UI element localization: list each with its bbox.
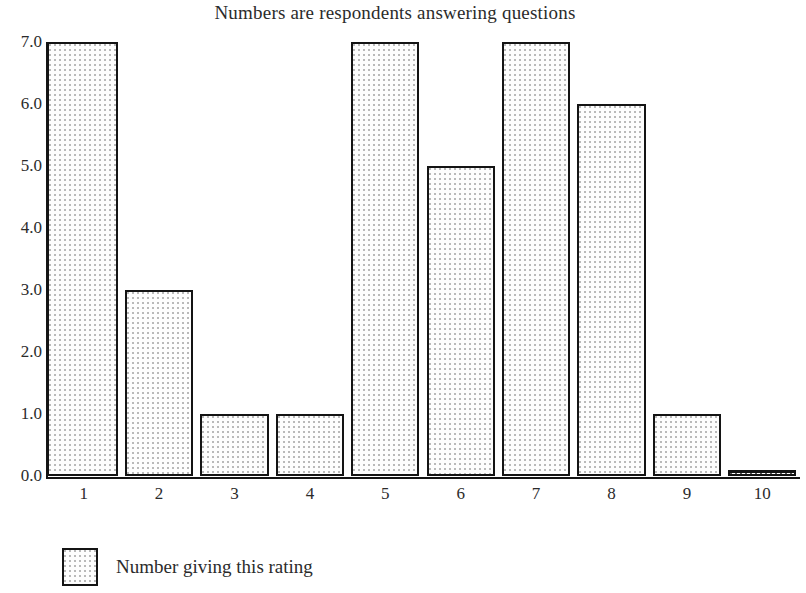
chart-title: Numbers are respondents answering questi…	[0, 2, 790, 24]
bar-8	[577, 104, 645, 476]
y-tick-label-3.0: 3.0	[0, 280, 42, 300]
x-tick-label-2: 2	[121, 484, 196, 504]
x-tick-label-1: 1	[46, 484, 121, 504]
y-tick-label-5.0: 5.0	[0, 156, 42, 176]
x-tick-label-9: 9	[649, 484, 724, 504]
bar-3	[200, 414, 268, 476]
y-axis-tick-labels: 0.01.02.03.04.05.06.07.0	[0, 42, 42, 479]
bar-6	[427, 166, 495, 476]
plot-area	[46, 42, 800, 478]
y-tick-label-6.0: 6.0	[0, 94, 42, 114]
x-tick-label-5: 5	[348, 484, 423, 504]
legend: Number giving this rating	[62, 548, 313, 586]
bar-9	[653, 414, 721, 476]
legend-swatch-icon	[62, 548, 98, 586]
bar-10	[728, 470, 796, 476]
bar-2	[125, 290, 193, 476]
bar-7	[502, 42, 570, 476]
x-tick-label-8: 8	[574, 484, 649, 504]
x-tick-label-3: 3	[197, 484, 272, 504]
x-axis-line	[46, 477, 800, 479]
x-tick-label-7: 7	[498, 484, 573, 504]
y-tick-label-4.0: 4.0	[0, 218, 42, 238]
bar-1	[47, 42, 118, 476]
legend-label: Number giving this rating	[116, 556, 313, 578]
x-axis-tick-labels: 12345678910	[46, 484, 800, 510]
y-tick-label-7.0: 7.0	[0, 32, 42, 52]
y-tick-label-2.0: 2.0	[0, 342, 42, 362]
y-tick-label-1.0: 1.0	[0, 404, 42, 424]
bar-5	[351, 42, 419, 476]
x-tick-label-10: 10	[725, 484, 800, 504]
y-tick-label-0.0: 0.0	[0, 466, 42, 486]
x-tick-label-4: 4	[272, 484, 347, 504]
x-tick-label-6: 6	[423, 484, 498, 504]
bar-4	[276, 414, 344, 476]
